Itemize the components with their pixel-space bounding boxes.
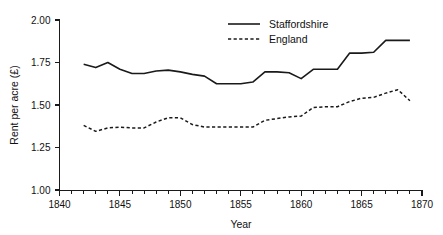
x-tick-group: 1840184518501855186018651870 bbox=[48, 190, 433, 210]
y-axis: 1.001.251.501.752.00 bbox=[31, 15, 59, 196]
y-tick-label: 1.50 bbox=[31, 100, 51, 111]
x-axis: 1840184518501855186018651870 bbox=[48, 190, 433, 210]
x-tick-label: 1855 bbox=[230, 199, 253, 210]
series-line-england bbox=[84, 90, 410, 132]
chart-figure: 1.001.251.501.752.00 1840184518501855186… bbox=[0, 0, 443, 235]
data-series-group bbox=[84, 40, 410, 131]
x-tick-label: 1840 bbox=[48, 199, 71, 210]
legend-label-staffordshire: Staffordshire bbox=[269, 18, 328, 30]
y-tick-label: 1.75 bbox=[31, 57, 51, 68]
x-tick-label: 1870 bbox=[411, 199, 434, 210]
y-tick-group: 1.001.251.501.752.00 bbox=[31, 15, 59, 196]
legend-label-england: England bbox=[269, 33, 308, 45]
chart-legend: StaffordshireEngland bbox=[228, 18, 328, 45]
series-line-staffordshire bbox=[84, 40, 410, 83]
x-axis-title: Year bbox=[230, 218, 252, 230]
x-tick-label: 1850 bbox=[169, 199, 192, 210]
line-chart: 1.001.251.501.752.00 1840184518501855186… bbox=[0, 0, 443, 235]
y-axis-title: Rent per acre (£) bbox=[8, 65, 20, 144]
x-tick-label: 1860 bbox=[290, 199, 313, 210]
y-tick-label: 2.00 bbox=[31, 15, 51, 26]
y-tick-label: 1.00 bbox=[31, 185, 51, 196]
y-tick-label: 1.25 bbox=[31, 142, 51, 153]
x-tick-label: 1845 bbox=[109, 199, 132, 210]
x-tick-label: 1865 bbox=[350, 199, 373, 210]
